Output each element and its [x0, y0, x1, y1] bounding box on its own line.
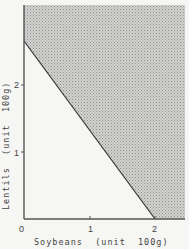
- y-axis-label: Lentils (unit 100g): [1, 82, 11, 210]
- x-tick-label-1: 1: [88, 224, 93, 234]
- x-tick-label-0: 0: [19, 224, 24, 234]
- y-tick-label-2: 2: [14, 80, 19, 90]
- x-axis-label: Soybeans (unit 100g): [34, 237, 169, 247]
- chart: 0 1 2 2 1 Soybeans (unit 100g) Lentils (…: [0, 0, 189, 249]
- shaded-region: [24, 5, 185, 219]
- x-tick-label-2: 2: [152, 224, 157, 234]
- y-tick-label-1: 1: [14, 148, 19, 158]
